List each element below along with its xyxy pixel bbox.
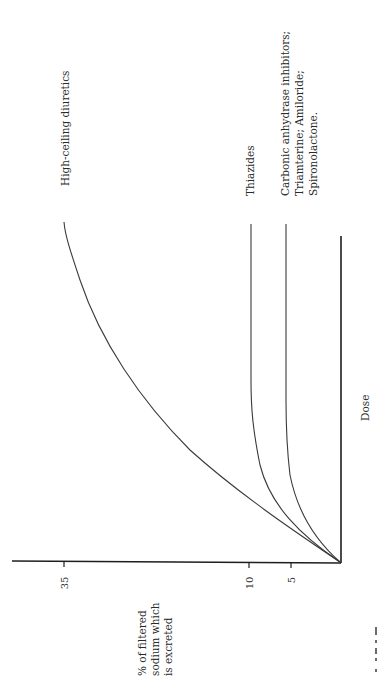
- tick-label-35: 35: [59, 577, 70, 590]
- response-axis-label-line-3: is excreted: [162, 617, 174, 676]
- tick-label-10: 10: [244, 577, 255, 590]
- response-axis-label: % of filtered sodium which is excreted: [136, 602, 174, 676]
- tick-label-5: 5: [286, 577, 297, 583]
- label-carbonic-line-2: Triamterine; Amiloride;: [293, 70, 305, 196]
- curve-high-ceiling-diuretics: [64, 222, 340, 562]
- label-carbonic-line-1: Carbonic anhydrase inhibitors;: [279, 31, 291, 196]
- response-axis-tick-labels: 35 10 5: [59, 577, 297, 590]
- label-carbonic-line-3: Spironolactone.: [307, 112, 319, 196]
- label-high-ceiling-diuretics: High-ceiling diuretics: [59, 71, 71, 186]
- response-axis-label-line-2: sodium which: [149, 602, 161, 676]
- diuretic-dose-response-chart: 35 10 5 % of filtered sodium which is ex…: [0, 0, 378, 678]
- curve-thiazides: [251, 224, 340, 562]
- label-carbonic-anhydrase-group: Carbonic anhydrase inhibitors; Triamteri…: [279, 31, 319, 196]
- curve-carbonic-anhydrase-etc: [286, 224, 340, 562]
- response-axis: [12, 561, 341, 563]
- caption-fragment: [375, 627, 377, 672]
- dose-axis-label: Dose: [359, 395, 371, 421]
- response-axis-label-line-1: % of filtered: [136, 610, 148, 676]
- label-thiazides: Thiazides: [244, 145, 256, 196]
